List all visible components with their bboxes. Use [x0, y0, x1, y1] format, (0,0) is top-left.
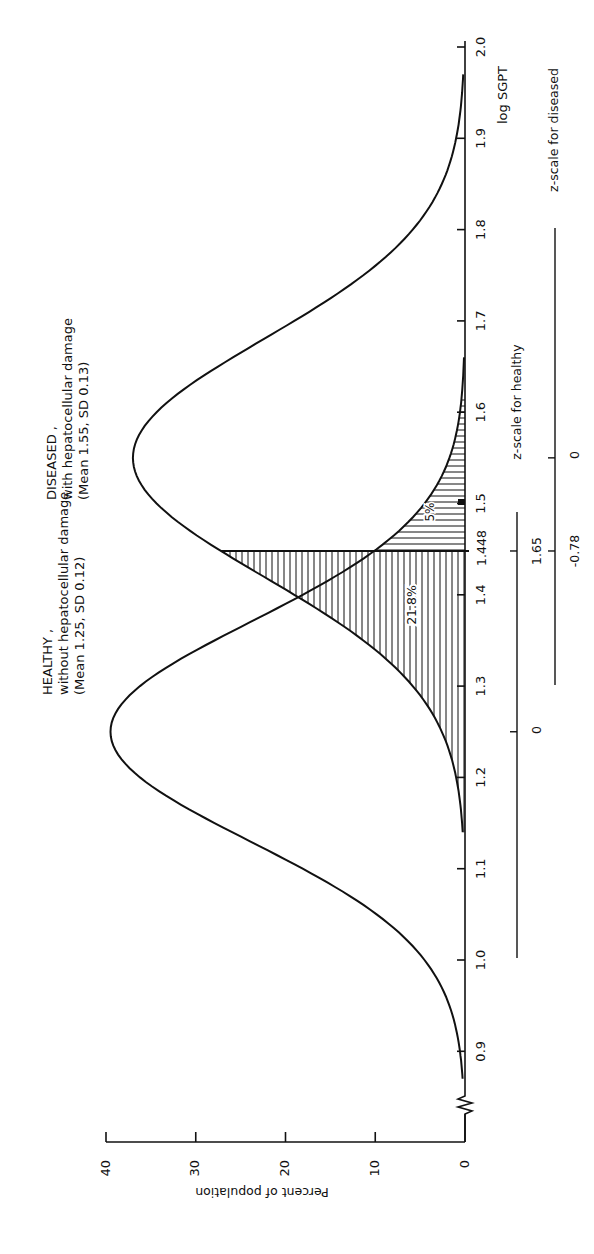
z-scales [510, 228, 555, 958]
x-axis-label: log SGPT [495, 66, 510, 124]
z-healthy-cutoff: 1.65 [529, 537, 544, 565]
x-tick-label: 2.0 [473, 37, 488, 58]
z-diseased-zero: 0 [567, 451, 582, 459]
y-tick-labels: 010203040 [98, 1160, 472, 1177]
y-tick-label: 30 [187, 1160, 202, 1177]
x-tick-label: 1.1 [473, 858, 488, 879]
pct-healthy-label: 5% [423, 502, 437, 521]
healthy-title: HEALTHY , [40, 629, 55, 695]
y-axis-label: Percent of population [195, 1185, 329, 1200]
shaded-area-diseased-below-cutoff [200, 540, 464, 880]
y-tick-label: 10 [367, 1160, 382, 1177]
healthy-stats: (Mean 1.25, SD 0.12) [72, 557, 87, 695]
z-diseased-cutoff: -0.78 [567, 535, 582, 567]
y-tick-label: 20 [277, 1160, 292, 1177]
x-tick-label: 0.9 [473, 1041, 488, 1062]
x-tick-label: 1.8 [473, 219, 488, 240]
axis-break-icon [458, 1090, 472, 1142]
diseased-title: DISEASED , [44, 426, 59, 500]
x-tick-label: 1.5 [473, 493, 488, 514]
x-tick-label: 1.2 [473, 767, 488, 788]
z-healthy-zero: 0 [529, 726, 544, 734]
y-tick-label: 40 [98, 1160, 113, 1177]
diseased-curve [133, 74, 463, 832]
x-tick-label: 1.0 [473, 950, 488, 971]
y-tick-label: 0 [457, 1160, 472, 1168]
diseased-legend-label: DISEASED , with hepatocellular damage (M… [44, 318, 91, 500]
diseased-stats: (Mean 1.55, SD 0.13) [76, 362, 91, 500]
z-scale-diseased-label: z-scale for diseased [546, 68, 561, 192]
y-axis-percent [106, 1114, 465, 1142]
healthy-subtitle: without hepatocellular damage [56, 492, 71, 695]
diseased-subtitle: with hepatocellular damage [60, 318, 75, 500]
healthy-curve [111, 357, 465, 1078]
x-tick-label: 1.4 [473, 584, 488, 605]
distribution-chart: 0.91.01.11.21.31.41.51.61.71.81.92.0 010… [0, 0, 594, 1254]
x-tick-label: 1.9 [473, 128, 488, 149]
x-tick-label: 1.3 [473, 676, 488, 697]
z-scale-healthy-label: z-scale for healthy [509, 344, 524, 460]
x-tick-label: 1.7 [473, 311, 488, 332]
healthy-legend-label: HEALTHY , without hepatocellular damage … [40, 492, 87, 695]
cutoff-label: 1.448 [474, 530, 489, 566]
x-tick-label: 1.6 [473, 402, 488, 423]
pct-diseased-label: 21.8% [404, 585, 419, 625]
